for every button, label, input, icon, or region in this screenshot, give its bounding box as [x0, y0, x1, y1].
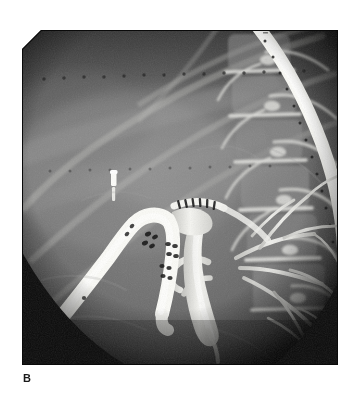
film-grain: [22, 30, 338, 365]
radiograph-image: [22, 30, 338, 365]
figure-root: B: [0, 0, 354, 396]
panel-label: B: [23, 372, 31, 384]
radiograph-canvas: [22, 30, 338, 365]
